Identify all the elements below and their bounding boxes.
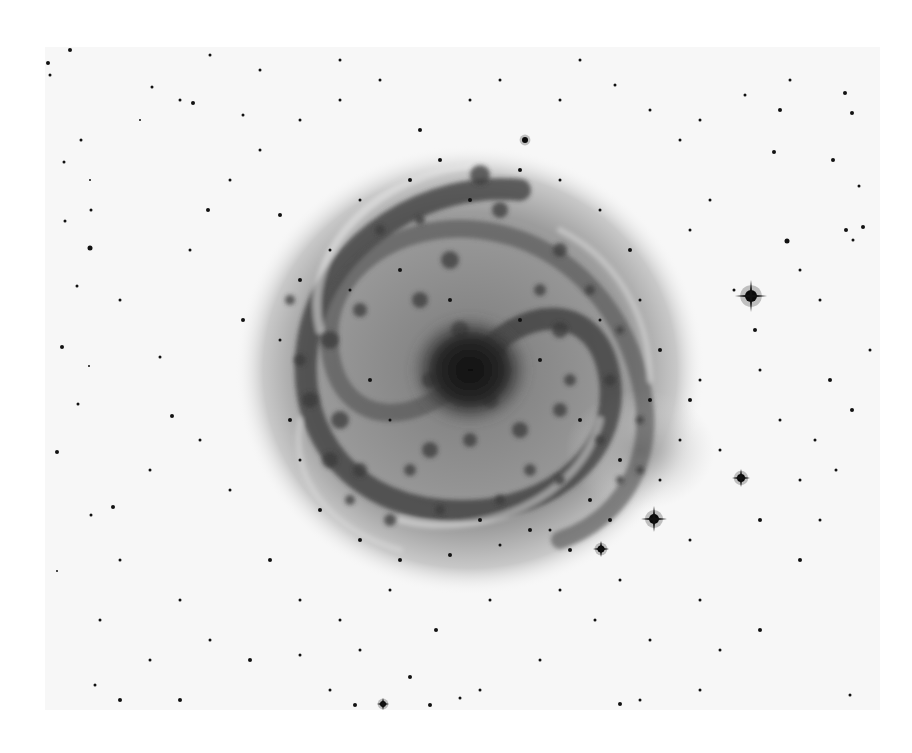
- star: [689, 229, 692, 232]
- star: [76, 285, 79, 288]
- star: [329, 249, 332, 252]
- star: [594, 619, 597, 622]
- hii-region: [353, 303, 367, 317]
- star: [88, 365, 90, 367]
- star: [63, 161, 66, 164]
- star: [299, 599, 302, 602]
- hii-region: [595, 435, 605, 445]
- star: [229, 179, 232, 182]
- star: [90, 209, 93, 212]
- star: [744, 94, 747, 97]
- star: [753, 328, 757, 332]
- star: [119, 559, 122, 562]
- star: [719, 649, 722, 652]
- star: [359, 649, 362, 652]
- hii-region: [321, 331, 339, 349]
- star: [368, 378, 372, 382]
- star: [60, 345, 64, 349]
- star: [559, 589, 562, 592]
- star: [298, 278, 302, 282]
- star: [568, 548, 572, 552]
- hii-region: [384, 514, 396, 526]
- star: [539, 659, 542, 662]
- star: [489, 599, 492, 602]
- star: [719, 449, 722, 452]
- hii-region: [564, 374, 576, 386]
- star: [268, 558, 272, 562]
- star: [679, 139, 682, 142]
- star: [170, 414, 174, 418]
- star: [179, 599, 182, 602]
- star: [844, 228, 848, 232]
- star: [408, 178, 412, 182]
- star: [339, 59, 342, 62]
- star: [206, 208, 210, 212]
- star: [479, 689, 482, 692]
- hii-region: [463, 433, 477, 447]
- star: [579, 59, 582, 62]
- hii-region: [534, 284, 546, 296]
- star: [858, 185, 861, 188]
- hii-region: [636, 466, 644, 474]
- star: [118, 698, 122, 702]
- star: [229, 489, 232, 492]
- star: [799, 269, 802, 272]
- star: [318, 508, 322, 512]
- star: [852, 239, 855, 242]
- star: [339, 99, 342, 102]
- star: [699, 689, 702, 692]
- star: [299, 119, 302, 122]
- star: [835, 469, 838, 472]
- star: [288, 418, 292, 422]
- star: [599, 209, 602, 212]
- star: [278, 213, 282, 217]
- star: [588, 498, 592, 502]
- star: [618, 702, 622, 706]
- star: [869, 349, 872, 352]
- star: [159, 356, 162, 359]
- star: [798, 558, 802, 562]
- hii-region: [552, 322, 568, 338]
- star: [299, 654, 302, 657]
- star: [689, 539, 692, 542]
- hii-region: [415, 215, 425, 225]
- star: [139, 119, 141, 121]
- star: [149, 469, 152, 472]
- star: [578, 418, 582, 422]
- star: [799, 479, 802, 482]
- star: [649, 109, 652, 112]
- star: [459, 697, 462, 700]
- star: [349, 289, 352, 292]
- star: [649, 639, 652, 642]
- star: [88, 246, 93, 251]
- star: [149, 659, 152, 662]
- star: [89, 179, 91, 181]
- star: [758, 628, 762, 632]
- star: [699, 119, 702, 122]
- star: [398, 558, 402, 562]
- star: [448, 553, 452, 557]
- bright-star: [520, 135, 531, 146]
- star: [850, 408, 854, 412]
- hii-region: [302, 392, 318, 408]
- star: [90, 514, 93, 517]
- hii-region: [616, 476, 624, 484]
- star: [468, 198, 472, 202]
- star: [709, 199, 712, 202]
- star: [699, 599, 702, 602]
- hii-region: [345, 495, 355, 505]
- star: [559, 179, 562, 182]
- hii-region: [404, 464, 416, 476]
- star: [758, 518, 762, 522]
- star: [199, 439, 202, 442]
- hii-region: [512, 422, 528, 438]
- star: [418, 128, 422, 132]
- star: [259, 149, 262, 152]
- star: [94, 684, 97, 687]
- star: [179, 99, 182, 102]
- star: [639, 699, 642, 702]
- star: [151, 86, 154, 89]
- star: [241, 318, 245, 322]
- hii-region: [492, 202, 508, 218]
- star: [789, 79, 792, 82]
